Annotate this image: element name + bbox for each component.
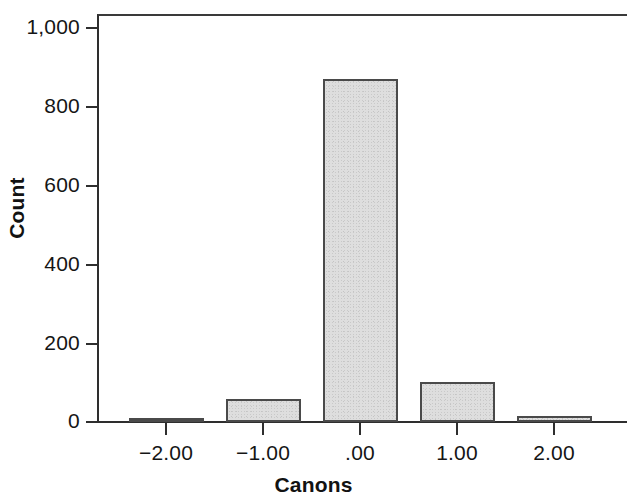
x-tick-mark <box>262 423 264 435</box>
y-tick-label: 1,000 <box>26 15 80 39</box>
x-tick-label: 2.00 <box>494 441 614 465</box>
y-tick-label: 200 <box>44 331 80 355</box>
bar-category-0 <box>129 418 204 422</box>
bar-category-3 <box>420 382 495 422</box>
y-tick-label: 600 <box>44 173 80 197</box>
y-tick-mark <box>86 27 98 29</box>
y-tick-label: 800 <box>44 94 80 118</box>
y-tick-label: 0 <box>68 409 80 433</box>
x-axis-title: Canons <box>0 473 627 497</box>
y-tick-mark <box>86 343 98 345</box>
y-tick-mark <box>86 106 98 108</box>
y-tick-label: 400 <box>44 252 80 276</box>
bar-category-2 <box>323 79 398 422</box>
x-tick-mark <box>359 423 361 435</box>
y-tick-mark <box>86 185 98 187</box>
y-tick-mark <box>86 264 98 266</box>
bar-category-1 <box>226 399 301 422</box>
histogram-figure: Count 1,000 800 600 400 200 0 −2.00 −1.0… <box>0 0 627 501</box>
x-tick-mark <box>456 423 458 435</box>
bar-category-4 <box>517 416 592 422</box>
y-tick-mark <box>86 421 98 423</box>
x-tick-mark <box>165 423 167 435</box>
x-tick-mark <box>553 423 555 435</box>
y-axis-title: Count <box>5 163 29 253</box>
